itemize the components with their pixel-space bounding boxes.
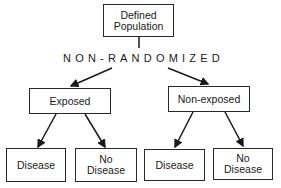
arrow-to-non-exposed [168, 68, 208, 84]
arrow-exposed-disease [38, 114, 56, 147]
arrow-to-exposed [71, 68, 112, 86]
outcome-box-exposed-no-disease: No Disease [75, 148, 137, 182]
root-label-line2: Population [114, 21, 164, 32]
outcome-label-line2: Disease [224, 164, 262, 175]
outcome-box-exposed-disease: Disease [6, 148, 66, 182]
group-label-non-exposed: Non-exposed [178, 94, 240, 105]
arrow-nonexposed-disease [175, 112, 193, 147]
arrow-nonexposed-no-disease [225, 112, 243, 146]
outcome-label: Disease [17, 160, 55, 171]
outcome-box-nonexposed-no-disease: No Disease [213, 148, 273, 180]
group-label-exposed: Exposed [50, 96, 91, 107]
split-label-non-randomized: NON-RANDOMIZED [63, 52, 224, 64]
root-box-defined-population: Defined Population [103, 4, 174, 37]
group-box-exposed: Exposed [29, 88, 111, 114]
arrow-exposed-no-disease [85, 114, 105, 147]
root-label-line1: Defined [114, 10, 164, 21]
outcome-box-nonexposed-disease: Disease [144, 149, 205, 181]
group-box-non-exposed: Non-exposed [168, 86, 250, 112]
outcome-label-line2: Disease [87, 165, 125, 176]
outcome-label: Disease [156, 160, 194, 171]
